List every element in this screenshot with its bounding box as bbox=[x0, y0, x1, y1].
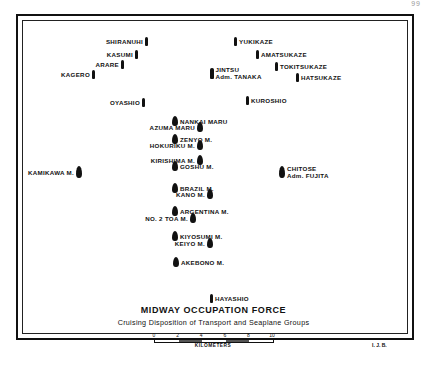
ship-no2-toa-m: NO. 2 TOA M. bbox=[145, 213, 196, 223]
ship-label: NO. 2 TOA M. bbox=[145, 215, 188, 222]
ship-name: KASUMI bbox=[107, 51, 133, 58]
ship-label: YUKIKAZE bbox=[239, 38, 273, 45]
ship-label: JINTSUAdm. TANAKA bbox=[216, 66, 262, 80]
ship-name: TOKITSUKAZE bbox=[280, 63, 327, 70]
ship-shiranuhi: SHIRANUHI bbox=[106, 37, 148, 46]
ship-name: KEIYO M. bbox=[175, 240, 205, 247]
scale-tick: 8 bbox=[247, 332, 250, 338]
ship-marker-icon bbox=[92, 70, 95, 79]
ship-marker-icon bbox=[207, 238, 213, 248]
ship-marker-icon bbox=[210, 68, 214, 79]
ship-label: KEIYO M. bbox=[175, 240, 205, 247]
ship-marker-icon bbox=[76, 166, 82, 178]
ship-name: KUROSHIO bbox=[251, 97, 287, 104]
ship-name: CHITOSE bbox=[287, 165, 329, 172]
ship-marker-icon bbox=[173, 257, 179, 267]
ship-kasumi: KASUMI bbox=[107, 50, 138, 59]
ship-label: AMATSUKAZE bbox=[261, 51, 307, 58]
ship-label: KASUMI bbox=[107, 51, 133, 58]
diagram-subtitle: Cruising Disposition of Transport and Se… bbox=[0, 318, 427, 327]
ship-jintsu: JINTSUAdm. TANAKA bbox=[210, 66, 262, 80]
ship-name: HAYASHIO bbox=[215, 295, 249, 302]
scale-tick: 6 bbox=[223, 332, 226, 338]
ship-kamikawa-m: KAMIKAWA M. bbox=[28, 166, 82, 178]
ship-hayashio: HAYASHIO bbox=[210, 294, 249, 303]
scale-unit-label: KILOMETERS bbox=[152, 343, 274, 348]
ship-arare: ARARE bbox=[95, 60, 124, 69]
ship-oyashio: OYASHIO bbox=[110, 98, 145, 107]
ship-chitose: CHITOSEAdm. FUJITA bbox=[279, 165, 329, 179]
ship-azuma-maru: AZUMA MARU bbox=[150, 122, 203, 132]
ship-name: SHIRANUHI bbox=[106, 38, 143, 45]
ship-marker-icon bbox=[190, 213, 196, 223]
ship-kagero: KAGERO bbox=[61, 70, 95, 79]
ship-kuroshio: KUROSHIO bbox=[246, 96, 287, 105]
ship-marker-icon bbox=[256, 50, 259, 59]
ship-name: AKEBONO M. bbox=[181, 259, 224, 266]
ship-name: HOKURIKU M. bbox=[150, 142, 195, 149]
ship-marker-icon bbox=[172, 161, 178, 171]
ship-marker-icon bbox=[145, 37, 148, 46]
ship-tokitsukaze: TOKITSUKAZE bbox=[275, 62, 327, 71]
ship-marker-icon bbox=[246, 96, 249, 105]
ship-name: KANO M. bbox=[176, 191, 205, 198]
ship-label: HATSUKAZE bbox=[301, 74, 341, 81]
ship-marker-icon bbox=[275, 62, 278, 71]
scale-segment bbox=[226, 340, 250, 342]
ship-name: JINTSU bbox=[216, 66, 262, 73]
ship-yukikaze: YUKIKAZE bbox=[234, 37, 273, 46]
ship-marker-icon bbox=[135, 50, 138, 59]
scale-tick: 0 bbox=[153, 332, 156, 338]
ship-marker-icon bbox=[279, 166, 285, 178]
ship-label: HAYASHIO bbox=[215, 295, 249, 302]
ship-keiyo-m: KEIYO M. bbox=[175, 238, 213, 248]
ship-goshu-m: GOSHU M. bbox=[172, 161, 214, 171]
ship-label: CHITOSEAdm. FUJITA bbox=[287, 165, 329, 179]
ship-label: ARARE bbox=[95, 61, 119, 68]
ship-label: SHIRANUHI bbox=[106, 38, 143, 45]
ship-marker-icon bbox=[296, 73, 299, 82]
ship-label: HOKURIKU M. bbox=[150, 142, 195, 149]
ship-commander: Adm. TANAKA bbox=[216, 73, 262, 80]
ship-kano-m: KANO M. bbox=[176, 189, 213, 199]
scale-tick: 10 bbox=[269, 332, 275, 338]
diagram-title: MIDWAY OCCUPATION FORCE bbox=[0, 305, 427, 315]
ship-name: AZUMA MARU bbox=[150, 124, 195, 131]
ship-marker-icon bbox=[142, 98, 145, 107]
page-number: 99 bbox=[411, 0, 421, 7]
scale-bar: 0 2 4 6 8 10 KILOMETERS bbox=[152, 332, 274, 350]
ship-commander: Adm. FUJITA bbox=[287, 172, 329, 179]
ship-marker-icon bbox=[207, 189, 213, 199]
ship-name: HATSUKAZE bbox=[301, 74, 341, 81]
ship-name: AMATSUKAZE bbox=[261, 51, 307, 58]
ship-marker-icon bbox=[197, 122, 203, 132]
scale-tick: 2 bbox=[176, 332, 179, 338]
ship-akebono-m: AKEBONO M. bbox=[173, 257, 224, 267]
ship-label: TOKITSUKAZE bbox=[280, 63, 327, 70]
ship-marker-icon bbox=[121, 60, 124, 69]
ship-name: KAMIKAWA M. bbox=[28, 169, 74, 176]
ship-label: KAMIKAWA M. bbox=[28, 169, 74, 176]
ship-name: YUKIKAZE bbox=[239, 38, 273, 45]
ship-label: KUROSHIO bbox=[251, 97, 287, 104]
ship-hokuriku-m: HOKURIKU M. bbox=[150, 140, 203, 150]
ship-name: OYASHIO bbox=[110, 99, 140, 106]
ship-label: GOSHU M. bbox=[180, 163, 214, 170]
ship-name: KAGERO bbox=[61, 71, 90, 78]
ship-name: ARARE bbox=[95, 61, 119, 68]
ship-label: KAGERO bbox=[61, 71, 90, 78]
ship-name: NO. 2 TOA M. bbox=[145, 215, 188, 222]
ship-label: AZUMA MARU bbox=[150, 124, 195, 131]
ship-hatsukaze: HATSUKAZE bbox=[296, 73, 341, 82]
ship-marker-icon bbox=[234, 37, 237, 46]
cartographer-initials: I. J. B. bbox=[372, 342, 387, 348]
scale-segment bbox=[179, 340, 203, 342]
ship-marker-icon bbox=[197, 140, 203, 150]
scale-tick: 4 bbox=[200, 332, 203, 338]
ship-name: GOSHU M. bbox=[180, 163, 214, 170]
ship-amatsukaze: AMATSUKAZE bbox=[256, 50, 307, 59]
ship-label: OYASHIO bbox=[110, 99, 140, 106]
ship-marker-icon bbox=[210, 294, 213, 303]
ship-label: AKEBONO M. bbox=[181, 259, 224, 266]
ship-label: KANO M. bbox=[176, 191, 205, 198]
